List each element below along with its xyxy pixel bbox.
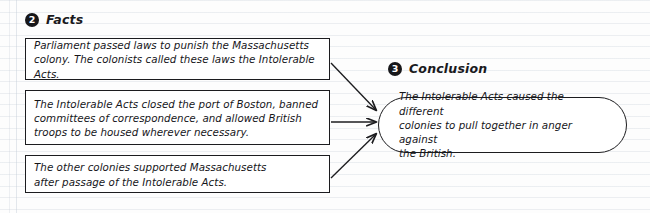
margin-rule-outer: [9, 0, 10, 213]
facts-heading-label: Facts: [46, 12, 83, 27]
facts-section-heading: 2 Facts: [25, 12, 83, 27]
fact-text: The Intolerable Acts closed the port of …: [34, 97, 321, 140]
step-number-badge-facts: 2: [25, 13, 39, 27]
fact-box: The other colonies supported Massachuset…: [25, 155, 330, 193]
arrow-fact-1-to-conclusion: [331, 63, 376, 110]
fact-text: Parliament passed laws to punish the Mas…: [34, 38, 321, 81]
step-number-badge-conclusion: 3: [388, 62, 402, 76]
graphic-organizer-page: 2 Facts Parliament passed laws to punish…: [0, 0, 650, 213]
conclusion-heading-label: Conclusion: [409, 61, 487, 76]
arrow-fact-3-to-conclusion: [331, 134, 376, 178]
fact-box: Parliament passed laws to punish the Mas…: [25, 38, 330, 80]
conclusion-text: The Intolerable Acts caused the differen…: [399, 89, 608, 160]
fact-box: The Intolerable Acts closed the port of …: [25, 90, 330, 145]
conclusion-box: The Intolerable Acts caused the differen…: [378, 97, 627, 153]
conclusion-section-heading: 3 Conclusion: [388, 61, 487, 76]
fact-text: The other colonies supported Massachuset…: [34, 160, 321, 189]
margin-rule-inner: [16, 0, 17, 213]
